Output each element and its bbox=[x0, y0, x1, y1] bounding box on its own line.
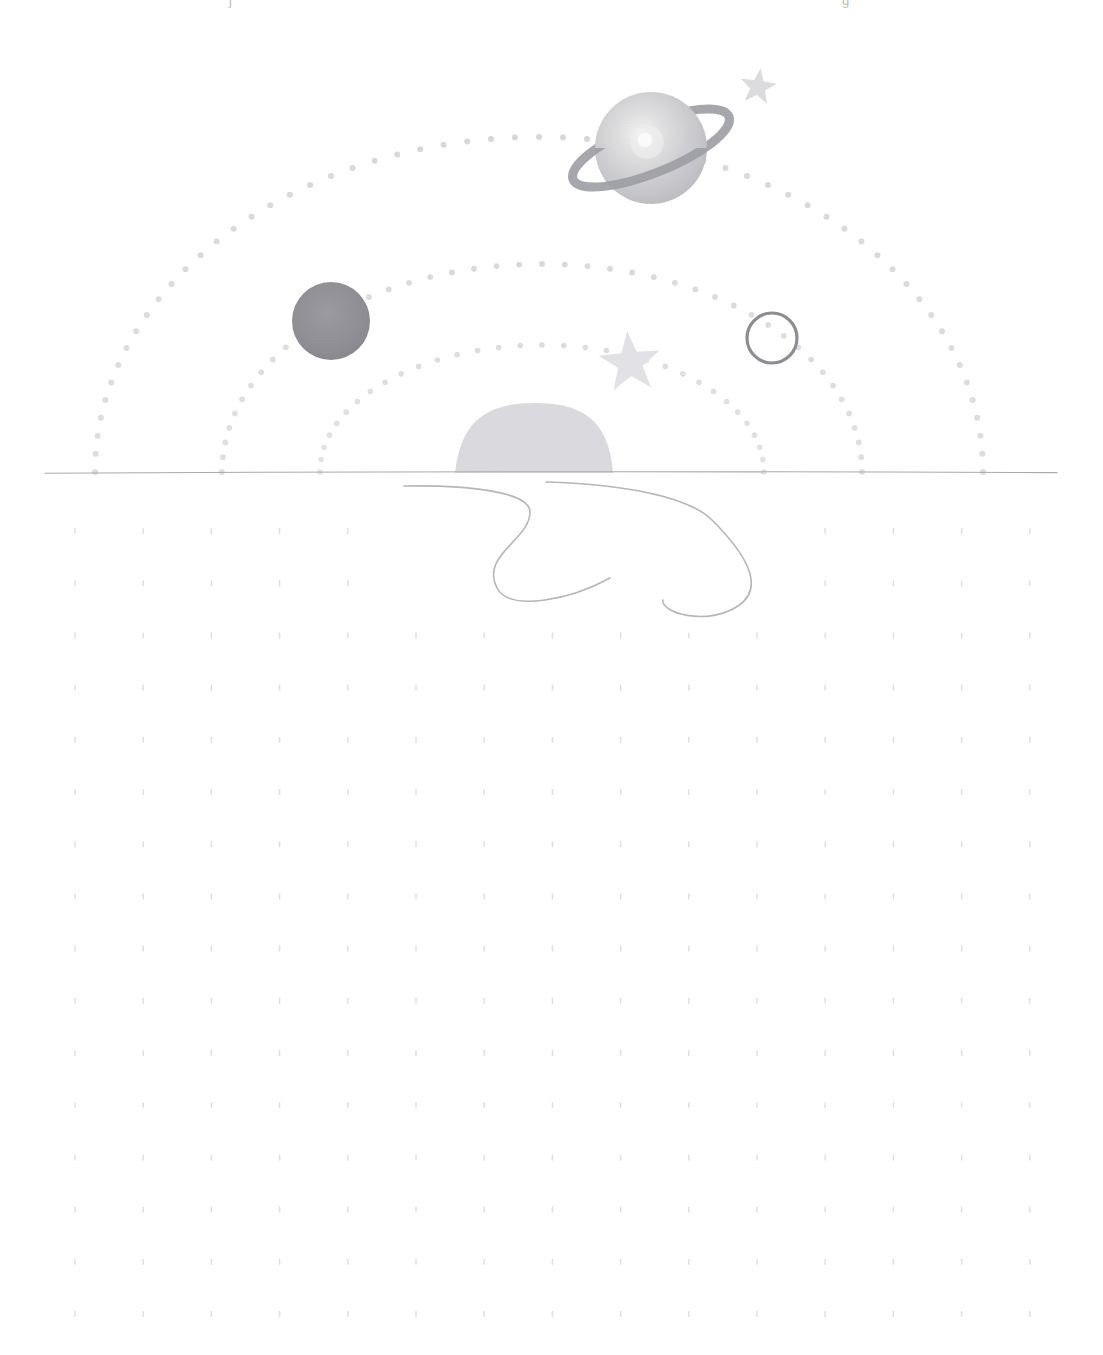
grid-dot bbox=[484, 998, 485, 1004]
grid-dot bbox=[756, 893, 757, 899]
grid-dot bbox=[893, 1154, 894, 1160]
orbit-dot bbox=[712, 294, 718, 300]
orbit-dot bbox=[604, 348, 610, 354]
orbit-dot bbox=[858, 454, 864, 460]
grid-dot bbox=[961, 1259, 962, 1265]
grid-dot bbox=[347, 1259, 348, 1265]
orbit-dot bbox=[124, 345, 130, 351]
grid-dot bbox=[961, 893, 962, 899]
grid-dot bbox=[415, 893, 416, 899]
grid-dot bbox=[825, 1050, 826, 1056]
orbit-dot bbox=[651, 274, 657, 280]
grid-dot bbox=[1029, 1154, 1030, 1160]
orbit-dot bbox=[435, 357, 441, 363]
grid-dot bbox=[74, 528, 75, 534]
grid-dot bbox=[279, 685, 280, 691]
orbit-dot bbox=[454, 352, 460, 358]
grid-dot bbox=[347, 1102, 348, 1108]
grid-dot bbox=[552, 789, 553, 795]
grid-dot bbox=[143, 737, 144, 743]
grid-dot bbox=[347, 685, 348, 691]
grid-dot bbox=[688, 632, 689, 638]
grid-dot bbox=[415, 1050, 416, 1056]
grid-dot bbox=[415, 1259, 416, 1265]
orbit-dot bbox=[366, 294, 372, 300]
grid-dot bbox=[211, 789, 212, 795]
grid-dot bbox=[484, 1259, 485, 1265]
grid-dot bbox=[279, 1311, 280, 1317]
hill-group bbox=[455, 403, 613, 473]
grid-dot bbox=[279, 1259, 280, 1265]
grid-dot bbox=[347, 946, 348, 952]
orbit-dot bbox=[102, 397, 108, 403]
grid-dot bbox=[1029, 1050, 1030, 1056]
orbit-dot bbox=[169, 281, 175, 287]
orbit-dot bbox=[258, 369, 264, 375]
grid-dot bbox=[415, 1102, 416, 1108]
grid-dot bbox=[893, 685, 894, 691]
grid-dot bbox=[211, 946, 212, 952]
orbit-dot bbox=[270, 357, 276, 363]
grid-dot bbox=[347, 841, 348, 847]
orbit-dot bbox=[629, 270, 635, 276]
grid-dot bbox=[484, 1102, 485, 1108]
orbit-dot bbox=[979, 451, 985, 457]
orbit-dot bbox=[464, 138, 470, 144]
grid-dot bbox=[552, 841, 553, 847]
grid-dot bbox=[347, 998, 348, 1004]
orbit-dot bbox=[115, 362, 121, 368]
grid-dot bbox=[1029, 580, 1030, 586]
planet-core-highlight bbox=[638, 133, 653, 148]
orbit-dot bbox=[368, 389, 374, 395]
orbit-dot bbox=[198, 252, 204, 258]
grid-dot bbox=[143, 1050, 144, 1056]
grid-dot bbox=[1029, 685, 1030, 691]
grid-dot bbox=[211, 841, 212, 847]
orbit-dot bbox=[970, 397, 976, 403]
grid-dot bbox=[756, 1050, 757, 1056]
grid-dot bbox=[1029, 528, 1030, 534]
grid-dot bbox=[961, 632, 962, 638]
orbit-dot bbox=[416, 364, 422, 370]
grid-dot bbox=[143, 1259, 144, 1265]
grid-dot bbox=[620, 1050, 621, 1056]
grid-dot bbox=[961, 998, 962, 1004]
orbit-dot bbox=[846, 411, 852, 417]
grid-dot bbox=[484, 1154, 485, 1160]
grid-dot bbox=[620, 841, 621, 847]
orbit-dot bbox=[722, 165, 728, 171]
grid-dot bbox=[552, 1207, 553, 1213]
grid-dot bbox=[1029, 1259, 1030, 1265]
orbit-dot bbox=[957, 362, 963, 368]
orbit-dot bbox=[95, 433, 101, 439]
grid-dot bbox=[756, 1207, 757, 1213]
grid-dot bbox=[347, 528, 348, 534]
orbit-dot bbox=[231, 226, 237, 232]
grid-dot bbox=[893, 946, 894, 952]
grid-dot bbox=[415, 632, 416, 638]
grid-dot bbox=[1029, 841, 1030, 847]
grid-dot bbox=[211, 580, 212, 586]
grid-dot bbox=[279, 580, 280, 586]
orbit-dot bbox=[760, 457, 766, 463]
grid-dot bbox=[825, 893, 826, 899]
orbit-dot bbox=[974, 415, 980, 421]
grid-dot bbox=[279, 1102, 280, 1108]
top-edge-mark-left: j bbox=[229, 0, 232, 8]
orbit-dot bbox=[343, 409, 349, 415]
grid-dot bbox=[143, 893, 144, 899]
orbit-dot bbox=[394, 152, 400, 158]
grid-dot bbox=[688, 1154, 689, 1160]
orbit-dot bbox=[735, 409, 741, 415]
grid-dot bbox=[552, 946, 553, 952]
orbit-dot bbox=[841, 226, 847, 232]
grid-dot bbox=[825, 789, 826, 795]
grid-dot bbox=[756, 789, 757, 795]
orbit-dot bbox=[808, 357, 814, 363]
orbit-dot bbox=[928, 312, 934, 318]
grid-dot bbox=[688, 685, 689, 691]
grid-dot bbox=[74, 1102, 75, 1108]
orbit-dot bbox=[830, 383, 836, 389]
grid-dot bbox=[756, 841, 757, 847]
grid-dot bbox=[825, 685, 826, 691]
